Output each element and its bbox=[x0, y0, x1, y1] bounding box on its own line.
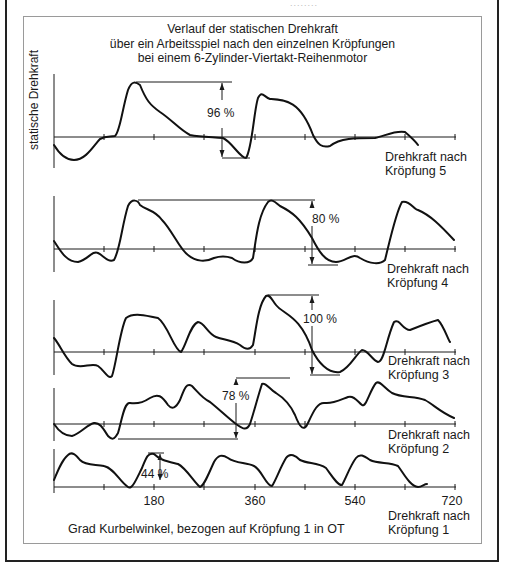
panel-label-k5: Drehkraft nach Kröpfung 5 bbox=[385, 150, 467, 178]
amplitude-label-k4: 80 % bbox=[312, 212, 339, 226]
panel-label-k1: Drehkraft nach Kröpfung 1 bbox=[388, 509, 470, 537]
x-tick-360: 360 bbox=[245, 494, 266, 508]
amplitude-label-k3: 100 % bbox=[303, 312, 337, 326]
amplitude-label-k5: 96 % bbox=[207, 106, 234, 120]
x-tick-540: 540 bbox=[345, 494, 366, 508]
x-axis-label: Grad Kurbelwinkel, bezogen auf Kröpfung … bbox=[68, 522, 345, 536]
x-tick-720: 720 bbox=[442, 494, 463, 508]
panel-label-k2: Drehkraft nach Kröpfung 2 bbox=[388, 428, 470, 456]
x-tick-180: 180 bbox=[144, 494, 165, 508]
curve-k1 bbox=[54, 453, 427, 487]
amplitude-label-k1: 44 % bbox=[141, 467, 168, 481]
amplitude-label-k2: 78 % bbox=[222, 389, 249, 403]
panel-label-k4: Drehkraft nach Kröpfung 4 bbox=[387, 262, 469, 290]
curve-k5 bbox=[54, 83, 418, 160]
curve-k4 bbox=[54, 201, 454, 264]
panel-label-k3: Drehkraft nach Kröpfung 3 bbox=[388, 354, 470, 382]
